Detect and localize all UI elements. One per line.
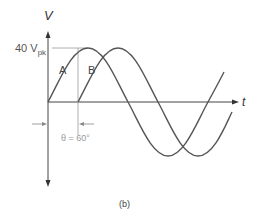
phase-arrow-right-head-icon: [79, 122, 84, 126]
peak-label: 40 Vpk: [15, 42, 46, 57]
sine-phase-diagram: [0, 0, 258, 224]
phase-arrow-left-head-icon: [42, 122, 47, 126]
figure-caption: (b): [119, 199, 130, 209]
curve-b-label: B: [88, 64, 95, 76]
y-axis-label: V: [44, 8, 53, 23]
phase-label: θ = 60°: [61, 133, 90, 143]
peak-label-value: 40 V: [15, 42, 38, 54]
y-axis-arrow-up-icon: [46, 31, 51, 38]
x-axis-label: t: [242, 95, 245, 109]
peak-label-sub: pk: [38, 48, 46, 57]
x-axis-arrow-icon: [232, 100, 239, 105]
y-axis-arrow-down-icon: [46, 180, 51, 187]
curve-a-label: A: [59, 64, 66, 76]
